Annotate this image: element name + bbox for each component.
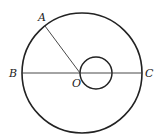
radius-oa <box>45 26 80 73</box>
diagram-canvas <box>0 0 160 139</box>
geometry-diagram: A B C O <box>0 0 160 139</box>
label-a: A <box>38 12 46 23</box>
label-c: C <box>145 68 153 79</box>
label-o: O <box>72 78 81 89</box>
label-b: B <box>9 68 17 79</box>
